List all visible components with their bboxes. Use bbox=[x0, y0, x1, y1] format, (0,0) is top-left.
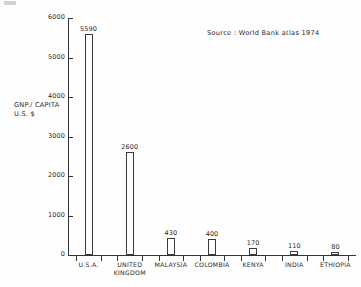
x-tick bbox=[265, 256, 266, 261]
bar-value-label: 110 bbox=[288, 242, 301, 250]
x-tick bbox=[307, 256, 308, 261]
y-tick-2000: 2000 bbox=[69, 176, 73, 177]
category-label: INDIA bbox=[285, 261, 304, 269]
y-axis-title-line-2: U.S. $ bbox=[14, 110, 59, 119]
bar: 2600 bbox=[126, 152, 134, 255]
category-label: UNITEDKINGDOM bbox=[114, 261, 146, 276]
scan-artifact bbox=[4, 1, 16, 5]
y-tick-1000: 1000 bbox=[69, 216, 73, 217]
x-axis-line bbox=[68, 255, 356, 256]
bar: 430 bbox=[167, 238, 175, 255]
bar: 170 bbox=[249, 248, 257, 255]
category-label: U.S.A. bbox=[79, 261, 99, 269]
y-tick-label: 1000 bbox=[48, 211, 65, 219]
bar-value-label: 5590 bbox=[80, 25, 97, 33]
y-tick-6000: 6000 bbox=[69, 18, 73, 19]
bar: 110 bbox=[290, 251, 298, 255]
category-label-line-1: ETHIOPIA bbox=[320, 261, 351, 269]
category-label-line-2: KINGDOM bbox=[114, 269, 146, 277]
bar: 80 bbox=[331, 252, 339, 255]
category-label-line-1: KENYA bbox=[242, 261, 263, 269]
category-label: MALAYSIA bbox=[155, 261, 188, 269]
y-axis-title-line-1: GNP./ CAPITA bbox=[14, 101, 59, 110]
y-tick-label: 4000 bbox=[48, 92, 65, 100]
bar: 400 bbox=[208, 239, 216, 255]
y-tick-3000: 3000 bbox=[69, 137, 73, 138]
x-tick bbox=[76, 256, 77, 261]
bar-chart-figure: GNP./ CAPITA U.S. $ Source : World Bank … bbox=[0, 0, 361, 287]
x-tick bbox=[282, 256, 283, 261]
bar-value-label: 400 bbox=[206, 230, 219, 238]
y-tick-label: 0 bbox=[61, 250, 65, 258]
category-label-line-1: U.S.A. bbox=[79, 261, 99, 269]
y-axis-title: GNP./ CAPITA U.S. $ bbox=[14, 101, 59, 118]
y-tick-label: 2000 bbox=[48, 171, 65, 179]
category-label-line-1: COLOMBIA bbox=[195, 261, 230, 269]
y-tick-5000: 5000 bbox=[69, 58, 73, 59]
y-tick-4000: 4000 bbox=[69, 97, 73, 98]
y-tick-label: 3000 bbox=[48, 132, 65, 140]
bar-value-label: 430 bbox=[164, 229, 177, 237]
bar: 5590 bbox=[85, 34, 93, 255]
y-tick-0: 0 bbox=[69, 255, 73, 256]
bar-value-label: 80 bbox=[331, 243, 339, 251]
category-label: ETHIOPIA bbox=[320, 261, 351, 269]
category-label: KENYA bbox=[242, 261, 263, 269]
category-label-line-1: UNITED bbox=[114, 261, 146, 269]
bar-value-label: 170 bbox=[247, 239, 260, 247]
plot-area: 6000500040003000200010000 55902600430400… bbox=[68, 18, 356, 255]
y-tick-label: 5000 bbox=[48, 53, 65, 61]
category-label-line-1: MALAYSIA bbox=[155, 261, 188, 269]
category-label: COLOMBIA bbox=[195, 261, 230, 269]
category-label-line-1: INDIA bbox=[285, 261, 304, 269]
x-tick bbox=[101, 256, 102, 261]
y-tick-label: 6000 bbox=[48, 13, 65, 21]
bar-value-label: 2600 bbox=[121, 143, 138, 151]
